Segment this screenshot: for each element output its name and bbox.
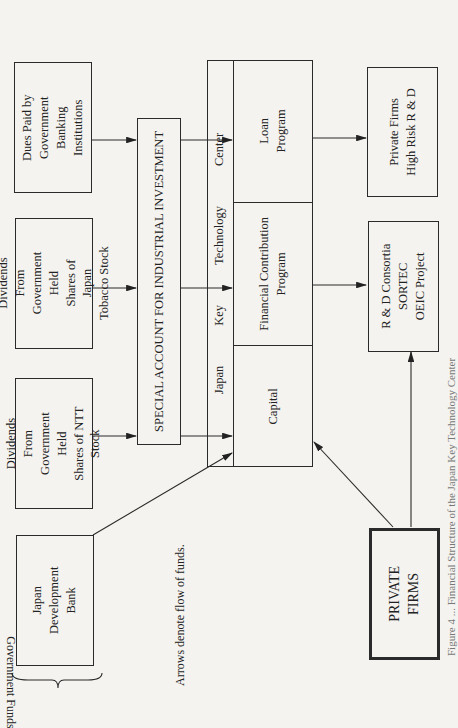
caption-wrap: Figure 4 ... Financial Structure of the … [444,300,458,714]
source-jdb-label: Japan Development Bank [30,567,81,634]
high-risk-rd-box: Private Firms High Risk R & D [367,67,438,197]
jktc-word: Key [213,305,228,326]
special-account-label: SPECIAL ACCOUNT FOR INDUSTRIAL INVESTMEN… [151,131,168,432]
source-ntt-box: Dividends From Government Held Shares of… [15,378,93,509]
note-wrap: Arrows denote flow of funds. [150,520,210,710]
government-funds-label-wrap: Government Funds [0,650,20,714]
private-firms-label: PRIVATE FIRMS [386,566,424,622]
jktc-word: Japan [213,366,228,394]
source-dues-box: Dues Paid by Government Banking Institut… [14,62,92,193]
flow-note: Arrows denote flow of funds. [172,544,188,686]
source-japan-tobacco-box: Dividends From Government Held Shares of… [15,218,93,349]
high-risk-rd-label: Private Firms High Risk R & D [386,88,420,176]
source-jdb-box: Japan Development Bank [16,535,94,666]
jktc-word: Center [213,133,228,166]
private-firms-box: PRIVATE FIRMS [369,528,440,660]
source-dues-label: Dues Paid by Government Banking Institut… [19,90,87,166]
loan-program-section: Loan Program [233,60,313,203]
special-account-box: SPECIAL ACCOUNT FOR INDUSTRIAL INVESTMEN… [137,118,181,445]
rd-consortia-box: R & D Consortia SORTEC OEIC Project [368,221,439,352]
loan-program-label: Loan Program [256,109,290,152]
capital-label: Capital [265,388,282,424]
capital-section: Capital [233,346,313,467]
source-ntt-label: Dividends From Government Held Shares of… [3,406,104,482]
source-japan-tobacco-label: Dividends From Government Held Shares of… [0,246,113,322]
financial-contribution-section: Financial Contribution Program [233,203,313,346]
government-funds-label: Government Funds [3,636,18,728]
jktc-title: Japan Key Technology Center [207,60,233,467]
jktc-word: Technology [213,206,228,265]
financial-contribution-label: Financial Contribution Program [256,217,290,331]
figure-caption: Figure 4 ... Financial Structure of the … [445,358,457,656]
rd-consortia-label: R & D Consortia SORTEC OEIC Project [378,244,429,329]
